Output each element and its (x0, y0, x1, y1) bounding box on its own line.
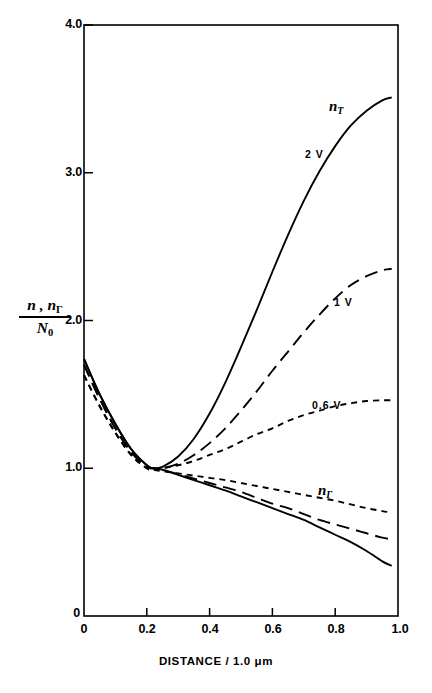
y-axis-title-numerator-text: n , n (27, 296, 56, 313)
y-axis-title-numerator-subscript: Γ (56, 304, 63, 315)
y-axis-title-numerator: n , nΓ (14, 296, 76, 315)
series-label-nT: nT (329, 98, 343, 116)
x-axis-title-text: DISTANCE / 1.0 μm (159, 655, 273, 667)
x-tick-label-4: 0.8 (318, 622, 354, 636)
x-tick-label-0: 0 (70, 622, 98, 636)
curve-5 (84, 359, 392, 566)
y-axis-title-denominator: N0 (14, 319, 76, 338)
figure-container: 4.0 3.0 2.0 1.0 0 n , nΓ N0 0 0.2 0.4 0.… (0, 0, 432, 693)
x-tick-label-3: 0.6 (255, 622, 291, 636)
x-axis-title: DISTANCE / 1.0 μm (0, 655, 432, 667)
bias-annotation-1v: 1 V (334, 296, 353, 308)
data-curves (84, 97, 392, 565)
series-label-nGamma-subscript: Γ (326, 489, 332, 500)
curve-0 (84, 97, 392, 468)
y-axis-title-denominator-text: N (37, 319, 48, 336)
y-tick-marks (84, 25, 93, 468)
axes-border (84, 25, 398, 616)
bias-annotation-2v: 2 V (305, 148, 324, 160)
plot-svg (0, 0, 432, 693)
x-tick-marks (147, 608, 335, 616)
x-tick-label-5: 1.0 (382, 622, 418, 636)
plot-frame (84, 25, 398, 616)
series-label-nGamma: nΓ (318, 482, 332, 500)
bias-annotation-06v: 0.6 V (312, 399, 342, 411)
curve-2 (84, 375, 392, 470)
series-label-nT-subscript: T (337, 105, 343, 116)
y-tick-label-0: 0 (60, 606, 80, 620)
y-axis-title-denominator-subscript: 0 (48, 326, 53, 337)
y-tick-label-1: 1.0 (54, 460, 82, 474)
y-tick-label-3: 3.0 (54, 165, 82, 179)
fraction-rule (19, 316, 71, 317)
y-axis-title: n , nΓ N0 (14, 296, 76, 338)
x-tick-label-1: 0.2 (129, 622, 165, 636)
x-tick-label-2: 0.4 (192, 622, 228, 636)
curve-4 (84, 365, 392, 539)
y-tick-label-4: 4.0 (54, 17, 82, 31)
